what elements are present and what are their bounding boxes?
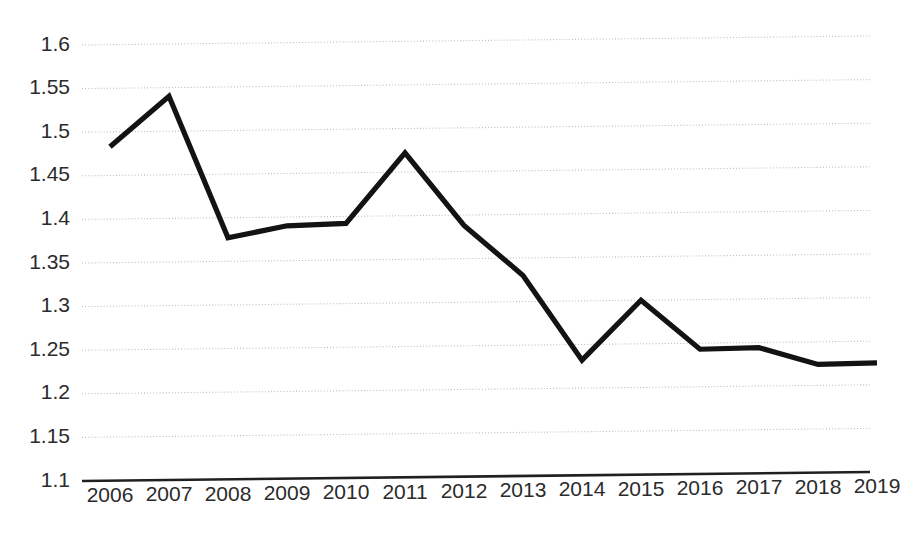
gridline xyxy=(82,123,870,132)
y-axis-tick-label: 1.35 xyxy=(29,250,70,273)
y-axis-tick-label: 1.4 xyxy=(41,206,71,229)
y-axis-tick-label: 1.3 xyxy=(41,293,70,316)
y-axis-tick-label: 1.6 xyxy=(41,32,70,55)
gridline xyxy=(82,80,870,89)
x-axis-tick-label: 2008 xyxy=(205,482,252,505)
gridline xyxy=(82,36,870,45)
x-axis-tick-label: 2013 xyxy=(500,478,547,501)
line-chart: 1.11.151.21.251.31.351.41.451.51.551.6 2… xyxy=(0,0,914,534)
x-axis-tick-label: 2015 xyxy=(618,477,665,500)
gridline xyxy=(82,428,870,437)
x-axis-tick-label: 2016 xyxy=(677,476,724,499)
x-axis-tick-label: 2007 xyxy=(146,482,193,505)
x-axis-tick-label: 2011 xyxy=(382,480,427,503)
x-axis-tick-label: 2010 xyxy=(323,480,370,503)
y-axis-tick-label: 1.1 xyxy=(41,468,70,491)
x-axis-tick-label: 2006 xyxy=(87,483,134,506)
x-axis-tick-label: 2019 xyxy=(854,474,901,497)
gridline xyxy=(82,254,870,263)
chart-canvas: 1.11.151.21.251.31.351.41.451.51.551.6 2… xyxy=(0,0,914,534)
y-axis-tick-label: 1.55 xyxy=(29,75,70,98)
gridline xyxy=(82,210,870,219)
series-polyline xyxy=(110,96,877,364)
gridline xyxy=(82,385,870,394)
y-axis-tick-label: 1.5 xyxy=(41,119,70,142)
y-axis-tick-label: 1.25 xyxy=(29,337,70,360)
x-axis-tick-label: 2017 xyxy=(736,475,783,498)
gridline xyxy=(82,298,870,307)
data-series-line xyxy=(110,96,877,364)
y-axis-tick-labels: 1.11.151.21.251.31.351.41.451.51.551.6 xyxy=(29,32,70,491)
x-axis-tick-label: 2009 xyxy=(264,481,311,504)
y-axis-tick-label: 1.15 xyxy=(29,424,70,447)
x-axis-tick-label: 2018 xyxy=(795,475,842,498)
y-axis-tick-label: 1.45 xyxy=(29,162,70,185)
y-axis-tick-label: 1.2 xyxy=(41,380,70,403)
x-axis-tick-label: 2014 xyxy=(559,477,606,500)
x-axis-tick-label: 2012 xyxy=(441,479,488,502)
